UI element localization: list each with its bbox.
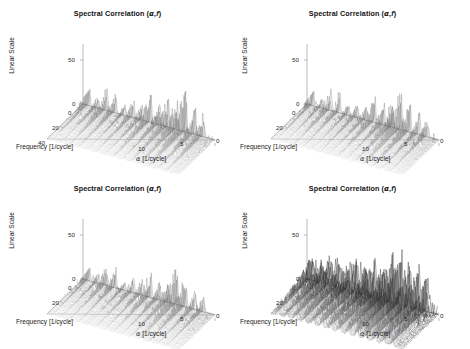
x-tick-10: 10 xyxy=(362,320,369,327)
z-tick-50: 50 xyxy=(292,56,299,63)
x-tick-0: 0 xyxy=(216,312,219,319)
depth-tick-20: 20 xyxy=(52,124,59,131)
x-axis-label: α [1/cycle] xyxy=(360,155,390,163)
depth-tick-20: 20 xyxy=(276,299,283,306)
x-tick-10: 10 xyxy=(138,320,145,327)
depth-tick-20: 20 xyxy=(276,124,283,131)
spectral-correlation-figure: Spectral Correlation (α,f) xyxy=(0,0,470,349)
panel-top-right: Spectral Correlation (α,f) xyxy=(235,0,470,174)
z-tick-0: 0 xyxy=(72,275,75,282)
z-axis-label: Linear Scale xyxy=(8,26,15,86)
x-tick-5: 5 xyxy=(180,315,183,322)
x-axis-label: α [1/cycle] xyxy=(360,330,390,338)
z-tick-50: 50 xyxy=(68,56,75,63)
z-tick-0: 0 xyxy=(296,275,299,282)
panel-bottom-right: Spectral Correlation (α,f) xyxy=(235,175,470,349)
depth-tick-0: 0 xyxy=(68,109,71,116)
z-tick-50: 50 xyxy=(68,231,75,238)
x-axis-label: α [1/cycle] xyxy=(136,155,166,163)
depth-tick-20: 20 xyxy=(52,299,59,306)
depth-tick-0: 0 xyxy=(292,284,295,291)
depth-axis-label: Frequency [1/cycle] xyxy=(16,143,73,150)
plot-area: Linear Scale 50 0 0 20 10 5 0 Frequency … xyxy=(235,0,470,174)
x-tick-5: 5 xyxy=(180,140,183,147)
x-tick-0: 0 xyxy=(440,137,443,144)
z-axis-label: Linear Scale xyxy=(241,26,248,86)
depth-axis-label: Frequency [1/cycle] xyxy=(16,318,73,325)
depth-axis-label: Frequency [1/cycle] xyxy=(240,143,297,150)
x-tick-10: 10 xyxy=(362,145,369,152)
z-tick-0: 0 xyxy=(72,100,75,107)
z-axis-label: Linear Scale xyxy=(241,201,248,261)
panel-bottom-left: Spectral Correlation (α,f) xyxy=(0,175,235,349)
plot-area: Linear Scale 50 0 0 20 10 5 0 Frequency … xyxy=(235,175,470,349)
depth-axis-label: Frequency [1/cycle] xyxy=(240,318,297,325)
spike-traces xyxy=(271,250,439,349)
x-tick-10: 10 xyxy=(138,145,145,152)
z-tick-0: 0 xyxy=(296,100,299,107)
x-tick-5: 5 xyxy=(404,140,407,147)
depth-tick-0: 0 xyxy=(292,109,295,116)
x-tick-5: 5 xyxy=(404,315,407,322)
x-tick-0: 0 xyxy=(216,137,219,144)
plot-area: Linear Scale 50 0 0 20 40 10 5 0 Frequen… xyxy=(0,0,235,174)
x-tick-0: 0 xyxy=(440,312,443,319)
plot-area: Linear Scale 50 0 0 20 10 5 0 Frequency … xyxy=(0,175,235,349)
panel-top-left: Spectral Correlation (α,f) xyxy=(0,0,235,174)
x-axis-label: α [1/cycle] xyxy=(136,330,166,338)
depth-tick-0: 0 xyxy=(68,284,71,291)
z-axis-label: Linear Scale xyxy=(8,201,15,261)
z-tick-50: 50 xyxy=(292,231,299,238)
